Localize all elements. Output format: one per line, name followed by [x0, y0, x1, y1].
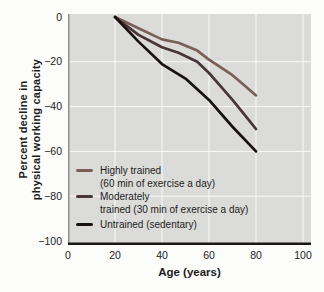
legend-line-swatch [76, 169, 93, 172]
y-tick-label: −20 [30, 56, 62, 67]
legend-label: Moderately trained (30 min of exercise a… [100, 190, 302, 216]
y-tick-label: −40 [30, 101, 62, 112]
y-tick-label: 0 [30, 12, 62, 23]
legend-item: Moderately trained (30 min of exercise a… [76, 190, 302, 216]
legend-label: Untrained (sedentary) [100, 218, 302, 231]
x-tick-label: 40 [146, 250, 178, 261]
x-tick-label: 80 [240, 250, 272, 261]
x-axis-title: Age (years) [68, 266, 311, 278]
x-tick-label: 60 [193, 250, 225, 261]
x-tick-label: 0 [52, 250, 84, 261]
legend-item: Highly trained (60 min of exercise a day… [76, 164, 302, 190]
x-tick-label: 20 [99, 250, 131, 261]
legend-label: Highly trained (60 min of exercise a day… [100, 164, 302, 190]
y-axis-title: Percent decline in physical working capa… [12, 14, 48, 245]
legend-line-swatch [76, 195, 93, 198]
legend-line-swatch [76, 223, 93, 226]
legend-item: Untrained (sedentary) [76, 218, 302, 231]
chart-legend: Highly trained (60 min of exercise a day… [76, 164, 302, 231]
y-tick-label: −80 [30, 191, 62, 202]
y-tick-label: −60 [30, 146, 62, 157]
y-tick-label: −100 [30, 236, 62, 247]
x-tick-label: 100 [287, 250, 319, 261]
line-chart-figure: Percent decline in physical working capa… [0, 0, 324, 292]
